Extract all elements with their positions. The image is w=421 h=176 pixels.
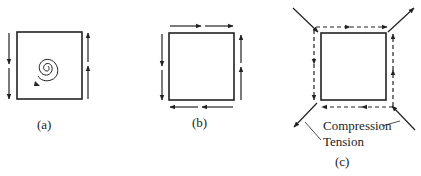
tension-label: Tension (323, 134, 364, 149)
element-square-c (321, 33, 386, 100)
panel-a: (a) (9, 32, 88, 132)
spiral-arrowhead-icon (34, 81, 40, 86)
tension-leader-line (305, 122, 321, 140)
panel-b: (b) (162, 26, 241, 130)
rotation-spiral-icon (38, 59, 58, 80)
diagonal-force-arrows-c (293, 8, 415, 130)
panel-c: Compression Tension (c) (293, 8, 415, 169)
compression-label: Compression (323, 118, 392, 133)
panel-label-c: (c) (335, 154, 349, 169)
tension-arrow-top-right (388, 8, 414, 32)
element-square-b (169, 33, 234, 100)
compression-arrow-top-left (293, 8, 318, 32)
tension-arrow-bottom-left (294, 103, 317, 127)
panel-label-b: (b) (192, 115, 207, 130)
dashed-shear-arrows-c (314, 27, 393, 107)
shear-stress-diagram: (a) (b) (0, 0, 421, 176)
compression-arrow-bottom-right (392, 106, 415, 130)
panel-label-a: (a) (37, 117, 51, 132)
element-square-a (17, 32, 82, 99)
